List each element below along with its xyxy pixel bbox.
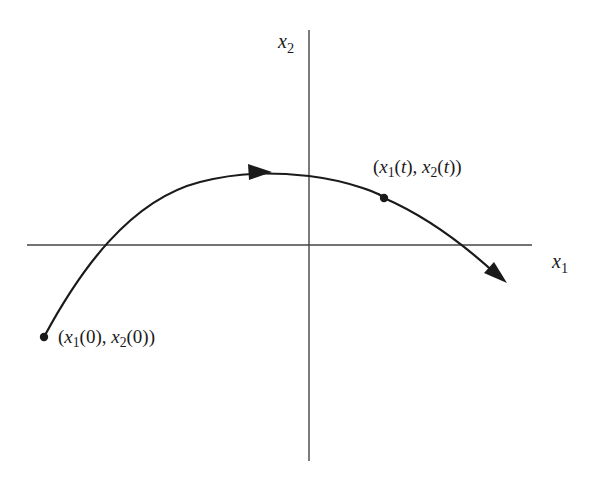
var: x: [64, 326, 72, 347]
sub: 2: [120, 335, 127, 350]
phase-plane-diagram: [0, 0, 600, 485]
sub: 2: [430, 165, 437, 180]
initial-point-marker: [40, 333, 48, 341]
x1-axis-label: x1: [552, 250, 568, 273]
x1-var: x: [552, 250, 561, 272]
sub: 1: [73, 335, 80, 350]
current-point-marker: [380, 194, 388, 202]
paren: ): [455, 156, 461, 177]
paren: ): [149, 326, 155, 347]
current-point-label: (x1(t), x2(t)): [373, 156, 462, 178]
arg: (0): [127, 326, 149, 347]
arg: (0): [80, 326, 102, 347]
x2-var: x: [278, 30, 287, 52]
sep: ,: [413, 156, 423, 177]
x1-sub: 1: [561, 260, 568, 276]
x2-axis-label: x2: [278, 30, 294, 53]
var: x: [111, 326, 119, 347]
sub: 1: [388, 165, 395, 180]
x2-sub: 2: [287, 40, 294, 56]
sep: ,: [102, 326, 112, 347]
var: x: [379, 156, 387, 177]
direction-arrow-icon: [248, 164, 272, 180]
initial-point-label: (x1(0), x2(0)): [58, 326, 155, 348]
trajectory-curve: [44, 174, 498, 337]
